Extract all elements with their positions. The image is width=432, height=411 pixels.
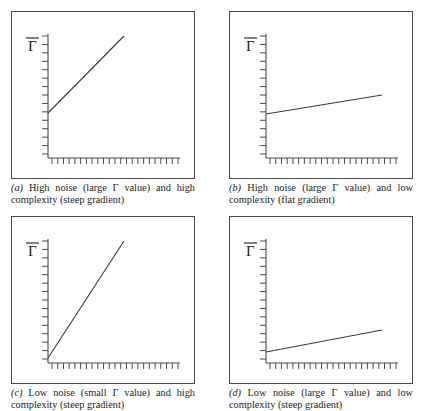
plot-svg-d: Γ — [230, 217, 414, 385]
x-axis-group-a — [48, 158, 180, 164]
data-line-c — [48, 241, 124, 358]
panel-caption-b: (b) High noise (large Γ value) and low c… — [229, 182, 413, 206]
figure-panel-a: Γ (a) High noise (large Γ value) and hig… — [11, 11, 197, 206]
plot-area-c: Γ — [11, 216, 195, 384]
x-axis-group-d — [266, 363, 398, 369]
data-line-d — [266, 330, 382, 352]
y-axis-label-d: Γ — [246, 243, 255, 259]
plot-svg-a: Γ — [12, 12, 196, 180]
figure-panel-c: Γ (c) Low noise (small Γ value) and high… — [11, 216, 197, 411]
x-axis-group-c — [48, 363, 180, 369]
y-axis-label-a: Γ — [28, 38, 37, 54]
y-axis-ticks — [42, 36, 48, 154]
y-axis-group-c — [42, 239, 48, 363]
panel-tag-d: (d) — [229, 387, 241, 398]
y-axis-group-b — [260, 34, 266, 158]
x-axis-ticks — [52, 158, 178, 164]
plot-area-d: Γ — [229, 216, 413, 384]
panel-tag-a: (a) — [11, 182, 23, 193]
x-axis-ticks — [52, 363, 178, 369]
y-axis-label-b: Γ — [246, 38, 255, 54]
data-line-a — [48, 36, 124, 113]
panel-tag-c: (c) — [11, 387, 22, 398]
panel-caption-text-b: High noise (large Γ value) and low compl… — [229, 182, 413, 205]
y-axis-group-a — [42, 34, 48, 158]
figure-panel-b: Γ (b) High noise (large Γ value) and low… — [229, 11, 415, 206]
plot-svg-c: Γ — [12, 217, 196, 385]
figure-grid: Γ (a) High noise (large Γ value) and hig… — [0, 0, 432, 411]
plot-area-a: Γ — [11, 11, 195, 179]
x-axis-group-b — [266, 158, 398, 164]
panel-caption-text-d: Low noise (large Γ value) and low comple… — [229, 387, 413, 410]
plot-svg-b: Γ — [230, 12, 414, 180]
figure-panel-d: Γ (d) Low noise (large Γ value) and low … — [229, 216, 415, 411]
panel-caption-a: (a) High noise (large Γ value) and high … — [11, 182, 195, 206]
y-axis-ticks — [260, 241, 266, 359]
y-axis-label-c: Γ — [28, 243, 37, 259]
plot-area-b: Γ — [229, 11, 413, 179]
panel-caption-d: (d) Low noise (large Γ value) and low co… — [229, 387, 413, 411]
panel-tag-b: (b) — [229, 182, 241, 193]
panel-caption-text-a: High noise (large Γ value) and high comp… — [11, 182, 195, 205]
x-axis-ticks — [270, 363, 396, 369]
x-axis-ticks — [270, 158, 396, 164]
y-axis-group-d — [260, 239, 266, 363]
panel-caption-text-c: Low noise (small Γ value) and high compl… — [11, 387, 195, 410]
y-axis-ticks — [260, 36, 266, 154]
data-line-b — [266, 95, 382, 114]
y-axis-ticks — [42, 241, 48, 359]
panel-caption-c: (c) Low noise (small Γ value) and high c… — [11, 387, 195, 411]
